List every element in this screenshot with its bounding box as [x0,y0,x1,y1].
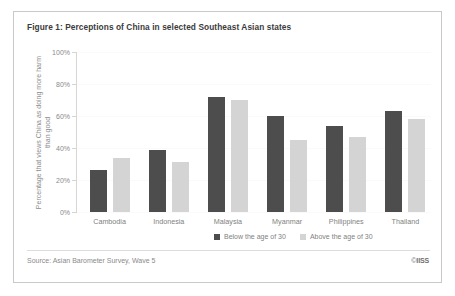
legend-swatch [300,234,306,240]
x-axis-label-thailand: Thailand [365,217,445,226]
gridline [77,84,431,85]
gridline [77,116,431,117]
y-axis-tick [72,116,76,117]
bar-cambodia-above-30 [113,158,130,212]
legend-item: Below the age of 30 [214,233,286,240]
y-axis-title: Percentage that views China as doing mor… [34,52,52,213]
y-axis-tick-label: 80% [56,81,70,88]
bar-thailand-above-30 [408,119,425,212]
bar-thailand-below-30 [385,111,402,212]
y-axis-tick-label: 0% [60,209,70,216]
footer-divider [27,250,430,251]
y-axis-tick-label: 60% [56,113,70,120]
bar-malaysia-below-30 [208,97,225,212]
figure-title: Figure 1: Perceptions of China in select… [27,22,291,32]
source-note: Source: Asian Barometer Survey, Wave 5 [27,257,155,264]
gridline [77,180,431,181]
y-axis-tick [72,212,76,213]
bar-group: Philippines [326,52,366,212]
figure-container: Figure 1: Perceptions of China in select… [13,11,442,283]
bar-group: Cambodia [90,52,130,212]
legend-label: Below the age of 30 [224,233,286,240]
gridline [77,52,431,53]
y-axis-tick [72,180,76,181]
bar-myanmar-above-30 [290,140,307,212]
bar-group: Malaysia [208,52,248,212]
copyright-org: IISS [416,257,429,264]
bar-malaysia-above-30 [231,100,248,212]
copyright-notice: ©IISS [411,257,429,264]
bar-myanmar-below-30 [267,116,284,212]
bar-cambodia-below-30 [90,170,107,212]
y-axis-line [76,52,77,213]
legend-item: Above the age of 30 [300,233,373,240]
legend-label: Above the age of 30 [310,233,373,240]
gridline [77,212,431,213]
bar-group: Thailand [385,52,425,212]
y-axis-tick-label: 40% [56,145,70,152]
bar-indonesia-below-30 [149,150,166,212]
y-axis-tick [72,84,76,85]
y-axis-tick-label: 100% [52,49,70,56]
y-axis-tick [72,148,76,149]
bar-indonesia-above-30 [172,162,189,212]
bar-philippines-above-30 [349,137,366,212]
bar-group: Indonesia [149,52,189,212]
y-axis-tick [72,52,76,53]
bar-philippines-below-30 [326,126,343,212]
plot-area: 0%20%40%60%80%100% CambodiaIndonesiaMala… [76,52,431,213]
y-axis-tick-label: 20% [56,177,70,184]
bar-group: Myanmar [267,52,307,212]
legend-swatch [214,234,220,240]
gridline [77,148,431,149]
chart-legend: Below the age of 30Above the age of 30 [214,233,387,240]
